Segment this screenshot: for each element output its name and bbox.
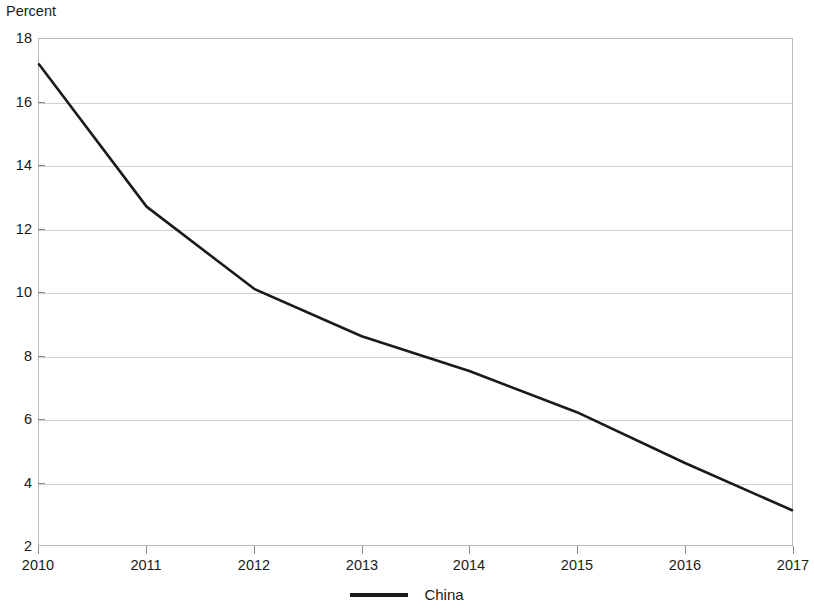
y-axis-tick-mark	[38, 102, 45, 103]
x-axis-tick-mark	[469, 546, 470, 554]
y-axis-tick-mark	[38, 292, 45, 293]
y-axis-tick-mark	[38, 419, 45, 420]
x-axis-tick-label: 2011	[111, 556, 181, 574]
y-axis-tick-mark	[38, 356, 45, 357]
y-axis-tick-label: 4	[2, 476, 32, 491]
x-axis-tick-mark	[793, 546, 794, 554]
y-axis-tick-mark	[38, 483, 45, 484]
x-axis-tick-label: 2016	[650, 556, 720, 574]
line-chart: Percent 18161412108642 China 20102011201…	[0, 0, 814, 612]
x-axis-tick-label: 2014	[434, 556, 504, 574]
x-axis-tick-mark	[362, 546, 363, 554]
legend: China	[0, 586, 814, 604]
plot-area	[38, 38, 793, 546]
x-axis-tick-mark	[38, 546, 39, 554]
series-line-china	[39, 64, 792, 510]
legend-item-label: China	[424, 586, 463, 604]
x-axis-tick-label: 2013	[327, 556, 397, 574]
series-layer	[39, 39, 792, 545]
y-axis-tick-label: 10	[2, 285, 32, 300]
y-axis-tick-label: 2	[2, 539, 32, 554]
y-axis-tick-label: 8	[2, 349, 32, 364]
x-axis-tick-label: 2015	[542, 556, 612, 574]
y-axis-tick-labels: 18161412108642	[0, 0, 32, 612]
y-axis-tick-label: 6	[2, 412, 32, 427]
x-axis-tick-mark	[146, 546, 147, 554]
legend-line-swatch-icon	[350, 593, 408, 597]
x-axis-tick-mark	[577, 546, 578, 554]
y-axis-tick-label: 12	[2, 222, 32, 237]
x-axis-tick-label: 2012	[219, 556, 289, 574]
y-axis-tick-label: 14	[2, 158, 32, 173]
y-axis-tick-label: 18	[2, 31, 32, 46]
y-axis-tick-mark	[38, 165, 45, 166]
x-axis-tick-mark	[254, 546, 255, 554]
y-axis-tick-label: 16	[2, 95, 32, 110]
x-axis-tick-mark	[685, 546, 686, 554]
legend-item-china: China	[350, 586, 463, 604]
y-axis-tick-mark	[38, 229, 45, 230]
x-axis-tick-label: 2010	[3, 556, 73, 574]
x-axis-tick-label: 2017	[758, 556, 814, 574]
